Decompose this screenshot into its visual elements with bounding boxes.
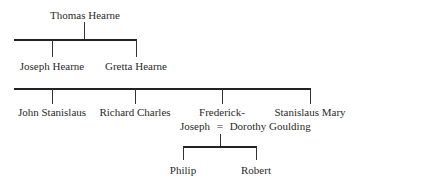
person-joseph-hearne: Joseph Hearne xyxy=(20,60,84,72)
person-gretta-hearne: Gretta Hearne xyxy=(105,60,167,72)
connector-line xyxy=(310,89,311,104)
person-dorothy-goulding: Dorothy Goulding xyxy=(230,120,311,132)
marriage-symbol: = xyxy=(217,120,223,132)
sibling-bar xyxy=(14,88,311,90)
connector-line xyxy=(52,89,53,104)
person-richard-charles: Richard Charles xyxy=(99,106,170,118)
sibling-bar xyxy=(14,39,137,41)
connector-line xyxy=(84,22,85,40)
person-robert: Robert xyxy=(241,164,271,176)
person-stanislaus-mary: Stanislaus Mary xyxy=(274,106,345,118)
sibling-bar xyxy=(183,146,257,148)
person-philip: Philip xyxy=(170,164,196,176)
connector-line xyxy=(52,40,53,57)
marriage-line: Joseph = Dorothy Goulding xyxy=(180,120,311,132)
connector-line xyxy=(135,89,136,104)
person-thomas-hearne: Thomas Hearne xyxy=(50,9,120,21)
person-frederick-joseph-line2: Joseph xyxy=(180,120,210,132)
connector-line xyxy=(136,40,137,57)
connector-line xyxy=(222,89,223,104)
person-john-stanislaus: John Stanislaus xyxy=(18,106,86,118)
person-frederick-joseph: Frederick- xyxy=(199,106,245,118)
connector-line xyxy=(256,147,257,160)
connector-line xyxy=(183,147,184,160)
